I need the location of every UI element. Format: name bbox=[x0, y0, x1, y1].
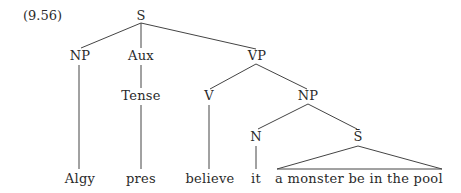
node-np-object: NP bbox=[298, 88, 319, 104]
node-s: S bbox=[136, 8, 145, 24]
node-tense: Tense bbox=[121, 88, 161, 104]
node-aux: Aux bbox=[128, 48, 154, 64]
node-n: N bbox=[250, 129, 262, 145]
node-vp: VP bbox=[248, 48, 267, 64]
leaf-it: it bbox=[251, 171, 261, 187]
example-number: (9.56) bbox=[23, 8, 62, 24]
node-s-bar: S̄ bbox=[353, 129, 362, 145]
tree-edges bbox=[0, 0, 461, 193]
leaf-clause: a monster be in the pool bbox=[275, 171, 443, 187]
leaf-algy: Algy bbox=[65, 171, 95, 187]
node-v: V bbox=[204, 88, 214, 104]
node-np: NP bbox=[70, 48, 91, 64]
leaf-believe: believe bbox=[185, 171, 234, 187]
leaf-pres: pres bbox=[126, 171, 156, 187]
